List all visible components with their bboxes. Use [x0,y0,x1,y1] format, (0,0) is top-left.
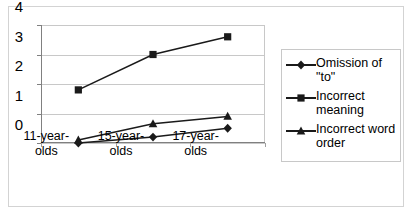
data-point-marker [224,33,231,40]
triangle-marker-icon [286,123,316,138]
legend-item[interactable]: Incorrect word order [286,122,396,150]
data-point-marker [75,86,82,93]
plot-area [41,25,265,143]
y-axis-tick-label: 1 [15,88,23,103]
series-plot [41,25,265,143]
legend-item-label: Omission of "to" [316,56,396,84]
y-axis-labels: 01234 [3,7,29,125]
legend-item[interactable]: Incorrect meaning [286,89,396,117]
legend-item[interactable]: Omission of "to" [286,56,396,84]
y-axis-tick-label: 4 [15,0,23,14]
square-marker-icon [286,90,316,105]
x-tick-mark [265,143,266,147]
data-point-marker [149,51,156,58]
diamond-marker-icon [286,57,316,72]
legend-item-label: Incorrect word order [316,122,396,150]
x-axis-labels: 11-year-olds15-year-olds17-year-olds [9,129,233,173]
chart-container: 01234 11-year-olds15-year-olds17-year-ol… [8,6,404,207]
y-axis-tick-label: 3 [15,29,23,44]
y-axis-tick-label: 2 [15,58,23,73]
legend-item-label: Incorrect meaning [316,89,396,117]
x-axis-category-label: 17-year-olds [158,129,234,159]
series-line [78,37,227,90]
x-axis-category-label: 11-year-olds [8,129,84,159]
chart-legend: Omission of "to"Incorrect meaningIncorre… [281,49,401,162]
x-axis-category-label: 15-year-olds [83,129,159,159]
data-point-marker [223,112,232,120]
